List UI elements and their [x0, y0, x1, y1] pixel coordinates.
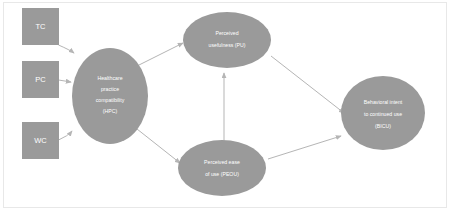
node-tc[interactable]: TC: [22, 8, 59, 45]
edge-pc-to-hpc: [59, 80, 72, 82]
node-pu[interactable]: Perceived usefulness (PU): [183, 12, 271, 68]
node-bicu-shape: [341, 76, 425, 150]
node-pc-shape: [22, 61, 59, 98]
node-peou-shape: [178, 140, 266, 196]
node-pc[interactable]: PC: [22, 61, 59, 98]
edge-wc-to-hpc: [59, 131, 73, 140]
edge-peou-to-bicu: [268, 136, 341, 159]
path-model-diagram: TC PC WC Healthcare practice compatibili…: [0, 0, 452, 212]
edge-pu-to-bicu: [271, 56, 344, 113]
diagram-canvas-container: TC PC WC Healthcare practice compatibili…: [0, 0, 452, 212]
edge-hpc-to-pu: [137, 43, 183, 66]
edge-hpc-to-peou: [137, 129, 180, 163]
node-tc-shape: [22, 8, 59, 45]
node-peou[interactable]: Perceived ease of use (PEOU): [178, 140, 266, 196]
node-bicu[interactable]: Behavioral intent to continued use (BICU…: [341, 76, 425, 150]
node-hpc-shape: [72, 48, 148, 144]
edge-tc-to-hpc: [59, 45, 75, 53]
node-pu-shape: [183, 12, 271, 68]
node-wc[interactable]: WC: [22, 122, 59, 159]
node-wc-shape: [22, 122, 59, 159]
node-hpc[interactable]: Healthcare practice compatibility (HPC): [72, 48, 148, 144]
